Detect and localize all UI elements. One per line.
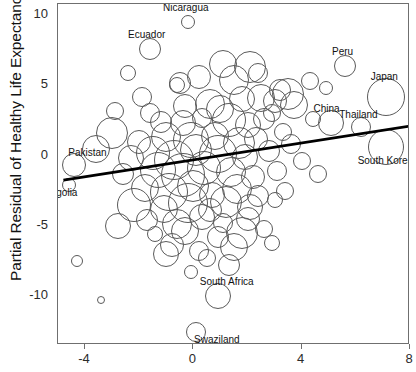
- y-tick-label: 0: [14, 148, 48, 161]
- trend-line: [58, 4, 409, 344]
- x-tick-label: -4: [64, 352, 104, 365]
- point-label: Ecuador: [128, 30, 165, 40]
- x-tick-label: 4: [281, 352, 321, 365]
- point-label: Mongolia: [57, 188, 77, 198]
- point-label: Japan: [371, 72, 398, 82]
- point-label: South Africa: [200, 277, 254, 287]
- point-label: Pakistan: [68, 148, 106, 158]
- point-label: Peru: [332, 47, 353, 57]
- point-label: Thailand: [339, 110, 377, 120]
- x-tick-mark: [192, 344, 193, 349]
- x-tick-mark: [301, 344, 302, 349]
- x-tick-label: 0: [172, 352, 212, 365]
- chart-figure: Partial Residual of Healthy Life Expecta…: [0, 0, 416, 372]
- plot-area: NicaraguaEcuadorPeruJapanChinaThailandSo…: [57, 3, 409, 344]
- y-tick-label: -5: [14, 218, 48, 231]
- point-label: China: [313, 104, 339, 114]
- x-tick-mark: [409, 344, 410, 349]
- y-tick-label: -10: [14, 288, 48, 301]
- x-tick-label: 8: [389, 352, 416, 365]
- y-tick-label: 5: [14, 77, 48, 90]
- point-label: Nicaragua: [163, 3, 209, 13]
- point-label: South Korea: [358, 156, 409, 166]
- x-tick-mark: [84, 344, 85, 349]
- y-axis-title: Partial Residual of Healthy Life Expecta…: [7, 0, 31, 281]
- point-label: Swaziland: [194, 335, 240, 344]
- y-tick-label: 10: [14, 7, 48, 20]
